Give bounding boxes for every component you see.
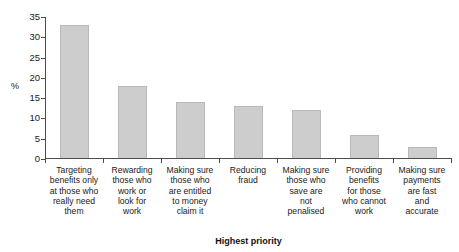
category-label-line: save are [278, 186, 334, 196]
plot-area [45, 17, 451, 159]
category-label-line: benefits [336, 175, 392, 185]
x-axis-tick-mark [451, 159, 452, 163]
category-label-line: work [336, 206, 392, 216]
y-axis-tick-labels: 05101520253035 [18, 0, 40, 252]
category-label: Making surethose whoare entitledto money… [161, 165, 219, 216]
category-label-line: penalised [278, 206, 334, 216]
category-label: Making surethose whosave arenotpenalised [277, 165, 335, 216]
category-label-line: work or [104, 186, 160, 196]
category-label-line: are fast [394, 186, 450, 196]
category-label: Making surepaymentsare fastandaccurate [393, 165, 451, 216]
y-axis-tick-label: 25 [18, 53, 40, 63]
x-axis-tick-mark [161, 159, 162, 163]
bar [60, 25, 89, 159]
x-axis-tick-mark [277, 159, 278, 163]
y-axis-tick-label: 35 [18, 12, 40, 22]
category-label-line: who cannot [336, 196, 392, 206]
category-label-line: are entitled [162, 186, 218, 196]
bar [292, 110, 321, 159]
y-axis-tick-label: 15 [18, 93, 40, 103]
category-label: Reducingfraud [219, 165, 277, 186]
category-label-line: payments [394, 175, 450, 185]
x-axis-title: Highest priority [45, 236, 452, 247]
bar-chart: % 05101520253035 Targetingbenefits onlya… [0, 0, 459, 252]
category-label-line: Providing [336, 165, 392, 175]
x-axis-tick-mark [219, 159, 220, 163]
category-label: Targetingbenefits onlyat those whoreally… [45, 165, 103, 216]
y-axis-tick-label: 5 [18, 134, 40, 144]
y-axis-tick-label: 0 [18, 154, 40, 164]
category-label-line: Rewarding [104, 165, 160, 175]
category-label-line: claim it [162, 206, 218, 216]
x-axis-tick-mark [103, 159, 104, 163]
category-label-line: those who [162, 175, 218, 185]
category-label-line: really need [46, 196, 102, 206]
y-axis-tick-label: 20 [18, 73, 40, 83]
x-axis-tick-mark [335, 159, 336, 163]
category-label-line: not [278, 196, 334, 206]
category-label-line: Targeting [46, 165, 102, 175]
x-axis-line [45, 158, 452, 159]
category-label-line: Making sure [278, 165, 334, 175]
category-label-line: benefits only [46, 175, 102, 185]
category-label-line: at those who [46, 186, 102, 196]
category-label-line: work [104, 206, 160, 216]
category-label: Providingbenefitsfor thosewho cannotwork [335, 165, 393, 216]
bar [234, 106, 263, 159]
x-axis-category-labels: Targetingbenefits onlyat those whoreally… [45, 165, 452, 227]
category-label-line: those who [278, 175, 334, 185]
category-label-line: them [46, 206, 102, 216]
category-label-line: and [394, 196, 450, 206]
bar [350, 135, 379, 159]
category-label-line: for those [336, 186, 392, 196]
category-label-line: those who [104, 175, 160, 185]
y-axis-tick-label: 10 [18, 113, 40, 123]
category-label-line: to money [162, 196, 218, 206]
bars-layer [45, 17, 451, 159]
x-axis-tick-mark [45, 159, 46, 163]
category-label: Rewardingthose whowork orlook forwork [103, 165, 161, 216]
x-axis-tick-mark [393, 159, 394, 163]
category-label-line: accurate [394, 206, 450, 216]
y-axis-tick-label: 30 [18, 32, 40, 42]
bar [118, 86, 147, 159]
category-label-line: Making sure [162, 165, 218, 175]
category-label-line: fraud [220, 175, 276, 185]
bar [176, 102, 205, 159]
category-label-line: look for [104, 196, 160, 206]
category-label-line: Reducing [220, 165, 276, 175]
category-label-line: Making sure [394, 165, 450, 175]
